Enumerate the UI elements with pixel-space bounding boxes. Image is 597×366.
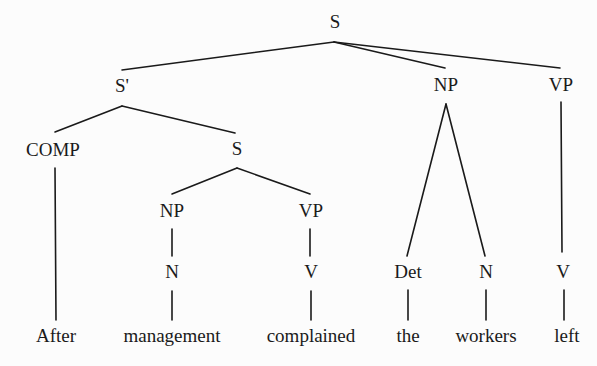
node-np-main: NP xyxy=(434,74,458,95)
node-det-the: Det xyxy=(394,261,422,282)
tree-edge xyxy=(561,102,562,252)
node-v-left: V xyxy=(556,261,570,282)
node-np-embedded: NP xyxy=(160,200,184,221)
tree-edge xyxy=(122,42,334,70)
leaf-word-workers: workers xyxy=(455,325,516,346)
node-v-complained: V xyxy=(304,261,318,282)
node-vp-main: VP xyxy=(549,74,573,95)
tree-edge xyxy=(55,168,56,320)
tree-nodes: S S' NP VP COMP S NP VP N V Det N V xyxy=(26,11,573,282)
node-root-s: S xyxy=(330,11,341,32)
tree-edge xyxy=(55,106,122,132)
node-s-bar: S' xyxy=(115,75,129,96)
leaf-word-after: After xyxy=(36,325,77,346)
tree-edge xyxy=(172,168,237,194)
tree-leaves: After management complained the workers … xyxy=(36,325,580,346)
node-vp-embedded: VP xyxy=(299,200,323,221)
tree-edge xyxy=(334,42,445,68)
node-s-embedded: S xyxy=(232,138,243,159)
leaf-word-left: left xyxy=(554,325,580,346)
leaf-word-management: management xyxy=(123,325,221,346)
tree-edge xyxy=(122,106,235,133)
tree-edge xyxy=(446,104,485,256)
leaf-word-complained: complained xyxy=(267,325,356,346)
tree-edge xyxy=(334,42,560,68)
leaf-word-the: the xyxy=(396,325,419,346)
node-n-workers: N xyxy=(479,261,493,282)
node-comp: COMP xyxy=(26,139,80,160)
tree-edge xyxy=(237,168,310,194)
syntax-tree-diagram: S S' NP VP COMP S NP VP N V Det N V Afte… xyxy=(0,0,597,366)
node-n-management: N xyxy=(165,261,179,282)
tree-edge xyxy=(407,104,446,256)
